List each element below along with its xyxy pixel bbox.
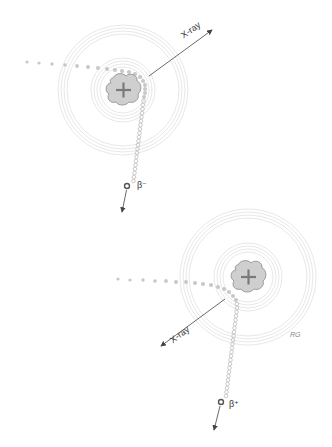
beta-trail-icon: [224, 302, 239, 398]
beta-minus-label: β⁻: [137, 180, 147, 190]
beta-minus-arrow-icon: [122, 190, 127, 212]
beta-trail-icon: [132, 99, 146, 183]
artist-signature: RG: [290, 331, 301, 338]
atom-1: [25, 25, 212, 212]
beta-plus-particle-icon: [219, 400, 224, 405]
beta-plus-label: β⁺: [229, 399, 239, 409]
beta-plus-arrow-icon: [214, 406, 220, 430]
decay-diagram-canvas: [0, 0, 332, 447]
atom-2: [116, 209, 316, 430]
beta-minus-particle-icon: [125, 184, 130, 189]
xray-arrow-icon: [149, 30, 212, 76]
